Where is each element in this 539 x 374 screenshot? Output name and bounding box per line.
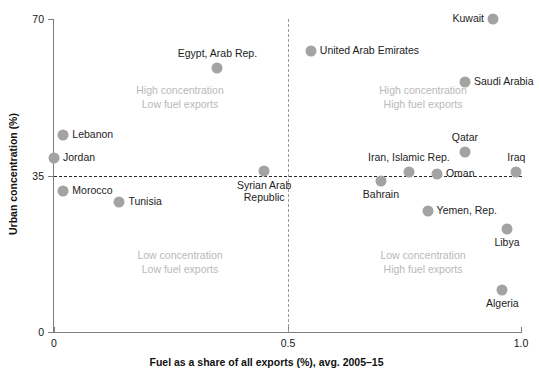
data-point[interactable] (422, 205, 433, 216)
data-point-label: Jordan (63, 152, 95, 164)
quadrant-annotation: High concentrationLow fuel exports (136, 84, 224, 111)
quadrant-annotation-line1: Low concentration (380, 249, 465, 263)
x-tick-label: 0.5 (268, 337, 308, 349)
data-point[interactable] (431, 168, 442, 179)
data-point[interactable] (259, 166, 270, 177)
quadrant-annotation: Low concentrationHigh fuel exports (380, 249, 465, 276)
data-point-label: Kuwait (452, 13, 484, 25)
x-tick-label: 0 (34, 337, 74, 349)
x-tick-mark (521, 327, 522, 332)
quadrant-annotation-line2: High fuel exports (380, 263, 465, 277)
data-point-label: Qatar (452, 132, 478, 144)
data-point[interactable] (403, 166, 414, 177)
quadrant-annotation: Low concentrationLow fuel exports (137, 249, 222, 276)
quadrant-annotation-line2: Low fuel exports (136, 98, 224, 112)
quadrant-annotation-line2: Low fuel exports (137, 263, 222, 277)
data-point-label: Lebanon (72, 129, 113, 141)
data-point-label: Syrian ArabRepublic (237, 180, 291, 203)
quadrant-annotation-line1: High concentration (136, 84, 224, 98)
data-point-label: Bahrain (363, 189, 399, 201)
data-point-label: Algeria (486, 298, 519, 310)
data-point-label: Saudi Arabia (474, 76, 534, 88)
data-point[interactable] (487, 14, 498, 25)
data-point[interactable] (459, 77, 470, 88)
data-point[interactable] (58, 129, 69, 140)
y-axis-title: Urban concentration (%) (7, 94, 19, 254)
quadrant-annotation-line2: High fuel exports (379, 98, 467, 112)
x-tick-label: 1.0 (501, 337, 539, 349)
quadrant-annotation-line1: Low concentration (137, 249, 222, 263)
data-point[interactable] (375, 175, 386, 186)
data-point[interactable] (511, 166, 522, 177)
quadrant-annotation-line1: High concentration (379, 84, 467, 98)
data-point-label: Morocco (72, 185, 112, 197)
data-point[interactable] (459, 146, 470, 157)
data-point[interactable] (212, 63, 223, 74)
data-point[interactable] (114, 196, 125, 207)
y-tick-mark (48, 332, 53, 333)
data-point-label: Libya (494, 237, 519, 249)
data-point[interactable] (501, 224, 512, 235)
y-tick-mark (48, 19, 53, 20)
x-axis-title: Fuel as a share of all exports (%), avg.… (0, 356, 533, 368)
data-point-label: Tunisia (128, 196, 161, 208)
data-point-label: United Arab Emirates (320, 45, 419, 57)
data-point-label: Iraq (507, 152, 525, 164)
data-point[interactable] (49, 153, 60, 164)
data-point-label: Yemen, Rep. (437, 205, 497, 217)
data-point[interactable] (497, 284, 508, 295)
y-tick-label: 70 (14, 13, 44, 25)
data-point-label: Iran, Islamic Rep. (368, 152, 450, 164)
data-point-label: Oman (446, 168, 475, 180)
quadrant-annotation: High concentrationHigh fuel exports (379, 84, 467, 111)
y-tick-mark (48, 176, 53, 177)
data-point[interactable] (305, 46, 316, 57)
x-axis-line (54, 332, 522, 333)
vertical-reference-line (288, 19, 289, 332)
data-point[interactable] (58, 186, 69, 197)
x-tick-mark (54, 327, 55, 332)
data-point-label: Egypt, Arab Rep. (178, 48, 257, 60)
